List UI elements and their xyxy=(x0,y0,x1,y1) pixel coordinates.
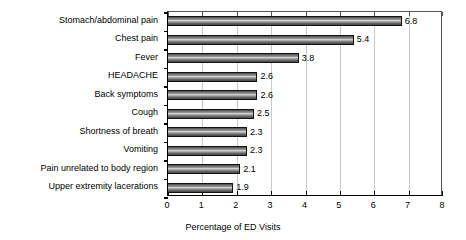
y-axis-category-label: Cough xyxy=(0,108,163,117)
y-axis-category-labels: Stomach/abdominal painChest painFeverHEA… xyxy=(0,0,163,198)
y-axis-category-label: Stomach/abdominal pain xyxy=(0,16,163,25)
y-axis-tick xyxy=(164,197,168,199)
x-axis-tick xyxy=(306,191,307,196)
x-axis-tick-label: 1 xyxy=(191,201,211,210)
bar-value-label: 2.3 xyxy=(250,146,263,155)
bar xyxy=(168,164,240,174)
y-axis-tick xyxy=(164,105,168,107)
bar-value-label: 3.8 xyxy=(302,54,315,63)
y-axis-category-label: Pain unrelated to body region xyxy=(0,164,163,173)
y-axis-category-label: Shortness of breath xyxy=(0,127,163,136)
y-axis-category-label: HEADACHE xyxy=(0,71,163,80)
y-axis-tick xyxy=(164,12,168,14)
bar-chart-figure: Stomach/abdominal painChest painFeverHEA… xyxy=(0,0,466,240)
plot-area: 6.85.43.82.62.62.52.32.32.11.9 xyxy=(167,11,442,196)
x-axis-tick-label: 8 xyxy=(432,201,452,210)
bar-value-label: 2.1 xyxy=(243,165,256,174)
y-axis-tick xyxy=(164,31,168,33)
bar xyxy=(168,127,247,137)
x-axis-tick xyxy=(340,191,341,196)
bar-value-label: 2.5 xyxy=(257,109,270,118)
bar xyxy=(168,53,299,63)
y-axis-category-label: Vomiting xyxy=(0,145,163,154)
x-axis-tick xyxy=(374,191,375,196)
x-axis-tick xyxy=(271,191,272,196)
bar xyxy=(168,90,257,100)
bar xyxy=(168,72,257,82)
bar-value-label: 2.6 xyxy=(260,91,273,100)
bar-value-label: 5.4 xyxy=(357,35,370,44)
x-axis-tick-top xyxy=(442,12,443,16)
x-axis-tick xyxy=(409,191,410,196)
bar xyxy=(168,183,233,193)
y-axis-tick xyxy=(164,160,168,162)
y-axis-category-label: Back symptoms xyxy=(0,90,163,99)
y-axis-tick xyxy=(164,68,168,70)
x-axis-tick-label: 7 xyxy=(398,201,418,210)
y-axis-tick xyxy=(164,179,168,181)
x-axis-tick-label: 6 xyxy=(363,201,383,210)
bar xyxy=(168,35,354,45)
y-axis-category-label: Upper extremity lacerations xyxy=(0,182,163,191)
x-axis-tick-label: 0 xyxy=(157,201,177,210)
bar-value-label: 1.9 xyxy=(236,183,249,192)
gridline xyxy=(374,12,375,195)
bar xyxy=(168,109,254,119)
x-axis-tick-label: 3 xyxy=(260,201,280,210)
gridline xyxy=(409,12,410,195)
x-axis-tick-label: 2 xyxy=(226,201,246,210)
bar xyxy=(168,16,402,26)
y-axis-category-label: Fever xyxy=(0,53,163,62)
bar-value-label: 2.3 xyxy=(250,128,263,137)
x-axis-tick-label: 4 xyxy=(295,201,315,210)
bar-value-label: 6.8 xyxy=(405,17,418,26)
y-axis-tick xyxy=(164,142,168,144)
y-axis-tick xyxy=(164,123,168,125)
bar xyxy=(168,146,247,156)
y-axis-tick xyxy=(164,49,168,51)
y-axis-tick xyxy=(164,86,168,88)
x-axis-tick xyxy=(442,191,443,196)
bar-value-label: 2.6 xyxy=(260,72,273,81)
y-axis-category-label: Chest pain xyxy=(0,34,163,43)
x-axis-tick-label: 5 xyxy=(329,201,349,210)
x-axis-title: Percentage of ED Visits xyxy=(0,222,466,232)
